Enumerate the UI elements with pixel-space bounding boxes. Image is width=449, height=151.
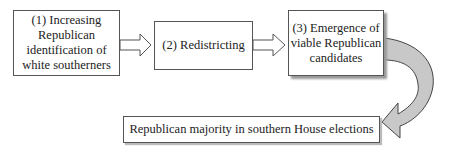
outcome-box: Republican majority in southern House el… <box>123 116 380 143</box>
step-1-label: (1) Increasing Republican identification… <box>14 13 119 73</box>
step-1-box: (1) Increasing Republican identification… <box>13 10 120 76</box>
arrow-1-to-2 <box>120 34 151 56</box>
step-3-label: (3) Emergence of viable Republican candi… <box>289 21 383 66</box>
arrow-2-to-3 <box>253 34 285 56</box>
curved-arrow-3-to-outcome <box>382 38 433 138</box>
step-3-box: (3) Emergence of viable Republican candi… <box>288 10 384 76</box>
step-2-label: (2) Redistricting <box>162 38 244 53</box>
step-2-box: (2) Redistricting <box>154 21 253 70</box>
outcome-label: Republican majority in southern House el… <box>129 122 373 137</box>
